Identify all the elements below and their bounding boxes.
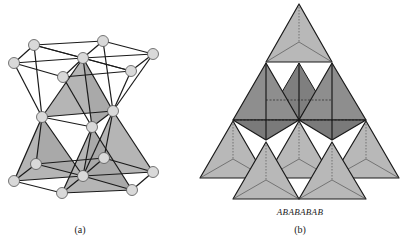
stacking-sequence-label: ABABABAB — [260, 207, 340, 217]
panel-b-caption: (b) — [285, 224, 315, 235]
top-tetrahedron — [266, 4, 332, 62]
back-row-tetrahedra — [200, 121, 399, 178]
panel-b-structure — [200, 4, 399, 199]
panel-a-structure — [9, 36, 159, 199]
figure-canvas — [0, 0, 406, 241]
panel-a-caption: (a) — [65, 224, 95, 235]
